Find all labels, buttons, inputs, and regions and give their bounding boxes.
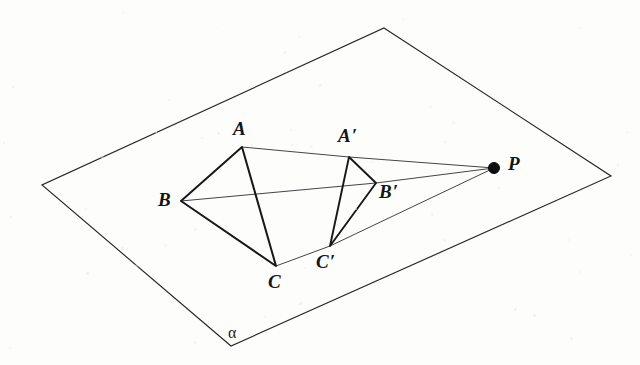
diagram-canvas [0, 0, 640, 365]
point-label-A-letter: A [233, 118, 246, 139]
point-label-A: A [233, 119, 246, 138]
point-label-Bp-prime: ′ [392, 181, 398, 202]
geometry-figure: ABCA′B′C′P α [0, 0, 640, 365]
ray-P-Aprime-A [242, 147, 494, 168]
point-label-B: B [158, 190, 171, 209]
triangle-ABC [181, 147, 276, 266]
point-label-P-letter: P [508, 153, 520, 174]
triangle-Aprime-Bprime-Cprime [330, 157, 376, 246]
point-label-Ap-letter: A [338, 125, 351, 146]
point-label-Bp-letter: B [379, 181, 392, 202]
point-label-Ap: A′ [338, 126, 357, 145]
plane-alpha-outline [42, 28, 611, 346]
point-label-Ap-prime: ′ [351, 125, 357, 146]
point-label-B-letter: B [158, 189, 171, 210]
plane-alpha-label: α [228, 325, 236, 341]
ray-P-Bprime-B [181, 168, 494, 201]
point-label-P: P [508, 154, 520, 173]
point-label-Cp-letter: C [316, 251, 329, 272]
point-label-C: C [268, 272, 281, 291]
point-label-Bp: B′ [379, 182, 398, 201]
point-label-C-letter: C [268, 271, 281, 292]
point-label-Cp: C′ [316, 252, 335, 271]
point-label-Cp-prime: ′ [329, 251, 335, 272]
point-P-dot [489, 163, 500, 174]
